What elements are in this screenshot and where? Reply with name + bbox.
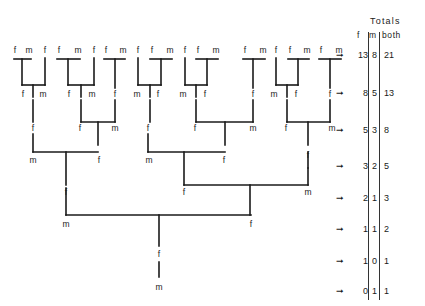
generation-3-labels: f f m bbox=[65, 187, 312, 197]
male-count: 1 bbox=[370, 224, 379, 234]
connectors-g3-g2 bbox=[66, 215, 251, 246]
totals-row-gen5: ➞ 5 3 8 bbox=[352, 125, 425, 137]
female-count: 3 bbox=[363, 161, 368, 171]
svg-text:f: f bbox=[22, 89, 25, 99]
svg-text:m: m bbox=[88, 89, 95, 99]
svg-text:m: m bbox=[166, 45, 173, 55]
svg-text:f: f bbox=[295, 89, 298, 99]
svg-text:m: m bbox=[62, 219, 69, 229]
both-count: 3 bbox=[384, 193, 389, 203]
svg-text:m: m bbox=[328, 123, 335, 133]
svg-text:f: f bbox=[320, 45, 323, 55]
female-count: 13 bbox=[358, 50, 368, 60]
svg-text:m: m bbox=[303, 45, 310, 55]
column-header-female: f bbox=[357, 30, 360, 40]
female-count: 8 bbox=[363, 88, 368, 98]
svg-text:f: f bbox=[329, 89, 332, 99]
generation-7-labels: f m f f m f f m f f m f f m f m f f m f … bbox=[14, 45, 343, 55]
both-count: 21 bbox=[384, 50, 394, 60]
svg-text:f: f bbox=[184, 45, 187, 55]
arrow-icon: ➞ bbox=[336, 50, 344, 60]
svg-text:f: f bbox=[289, 45, 292, 55]
both-count: 5 bbox=[384, 161, 389, 171]
arrow-icon: ➞ bbox=[336, 193, 344, 203]
svg-text:f: f bbox=[79, 123, 82, 133]
svg-text:f: f bbox=[105, 45, 108, 55]
female-count: 1 bbox=[363, 224, 368, 234]
totals-row-gen3: ➞ 2 1 3 bbox=[352, 193, 425, 205]
svg-text:m: m bbox=[304, 187, 311, 197]
svg-text:f: f bbox=[250, 219, 253, 229]
totals-row-gen6: ➞ 8 5 13 bbox=[352, 88, 425, 100]
svg-text:f: f bbox=[151, 45, 154, 55]
female-count: 2 bbox=[363, 193, 368, 203]
svg-text:f: f bbox=[285, 123, 288, 133]
totals-row-gen2: ➞ 1 1 2 bbox=[352, 224, 425, 236]
generation-5-labels: f f m f f m f m bbox=[32, 123, 336, 133]
both-count: 13 bbox=[384, 88, 394, 98]
column-header-male: m bbox=[369, 30, 377, 40]
male-count: 1 bbox=[370, 286, 379, 296]
male-count: 1 bbox=[370, 193, 379, 203]
svg-text:f: f bbox=[44, 45, 47, 55]
svg-text:m: m bbox=[259, 45, 266, 55]
svg-text:f: f bbox=[32, 123, 35, 133]
svg-text:m: m bbox=[249, 123, 256, 133]
generation-1-labels: f bbox=[158, 249, 161, 259]
both-count: 1 bbox=[384, 256, 389, 266]
male-count: 3 bbox=[370, 125, 379, 135]
totals-row-gen4: ➞ 3 2 5 bbox=[352, 161, 425, 173]
svg-text:m: m bbox=[133, 89, 140, 99]
totals-row-gen1: ➞ 1 0 1 bbox=[352, 256, 425, 268]
svg-text:m: m bbox=[155, 282, 162, 292]
connectors-g4-g3 bbox=[66, 168, 308, 215]
svg-text:f: f bbox=[137, 45, 140, 55]
svg-text:m: m bbox=[119, 45, 126, 55]
svg-text:f: f bbox=[157, 89, 160, 99]
female-count: 0 bbox=[363, 286, 368, 296]
svg-text:m: m bbox=[212, 45, 219, 55]
arrow-icon: ➞ bbox=[336, 224, 344, 234]
arrow-icon: ➞ bbox=[336, 286, 344, 296]
svg-text:f: f bbox=[14, 45, 17, 55]
svg-text:f: f bbox=[307, 150, 310, 160]
arrow-icon: ➞ bbox=[336, 88, 344, 98]
svg-text:m: m bbox=[111, 123, 118, 133]
both-count: 8 bbox=[384, 125, 389, 135]
column-header-both: both bbox=[382, 30, 401, 40]
svg-text:f: f bbox=[98, 155, 101, 165]
svg-text:m: m bbox=[39, 89, 46, 99]
svg-text:f: f bbox=[158, 249, 161, 259]
both-count: 2 bbox=[384, 224, 389, 234]
svg-text:f: f bbox=[275, 45, 278, 55]
svg-text:f: f bbox=[194, 123, 197, 133]
svg-text:m: m bbox=[145, 155, 152, 165]
generation-0-labels: m bbox=[155, 282, 162, 292]
totals-row-gen7: ➞ 13 8 21 bbox=[352, 50, 425, 62]
female-count: 5 bbox=[363, 125, 368, 135]
svg-text:m: m bbox=[179, 89, 186, 99]
generation-2-labels: m f bbox=[62, 219, 252, 229]
svg-text:f: f bbox=[197, 45, 200, 55]
svg-text:m: m bbox=[25, 45, 32, 55]
totals-title: Totals bbox=[370, 16, 401, 26]
totals-panel: Totals f m both ➞ 13 8 21 ➞ 8 5 13 ➞ 5 3… bbox=[352, 12, 425, 306]
svg-text:f: f bbox=[223, 155, 226, 165]
svg-text:f: f bbox=[114, 89, 117, 99]
svg-text:m: m bbox=[29, 155, 36, 165]
svg-text:m: m bbox=[270, 89, 277, 99]
svg-text:f: f bbox=[93, 45, 96, 55]
connectors-g7-g6 bbox=[14, 58, 341, 97]
male-count: 2 bbox=[370, 161, 379, 171]
svg-text:m: m bbox=[74, 45, 81, 55]
arrow-icon: ➞ bbox=[336, 256, 344, 266]
svg-text:f: f bbox=[244, 45, 247, 55]
svg-text:f: f bbox=[58, 45, 61, 55]
both-count: 1 bbox=[384, 286, 389, 296]
svg-text:f: f bbox=[204, 89, 207, 99]
arrow-icon: ➞ bbox=[336, 161, 344, 171]
svg-text:f: f bbox=[252, 89, 255, 99]
svg-text:f: f bbox=[147, 123, 150, 133]
male-count: 0 bbox=[370, 256, 379, 266]
generation-6-labels: f m f m f m f m f f m f f bbox=[22, 89, 332, 99]
